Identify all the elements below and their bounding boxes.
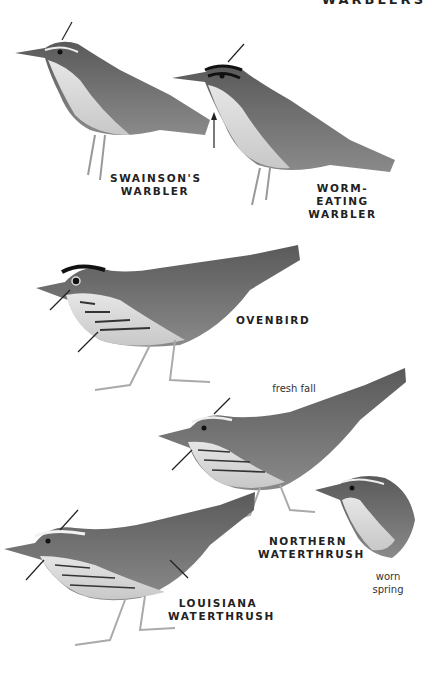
label-louisiana-waterthrush: LOUISIANA WATERTHRUSH: [168, 597, 268, 623]
label-swainsons-warbler: SWAINSON'S WARBLER: [110, 172, 200, 198]
note-fresh-fall: fresh fall: [264, 382, 324, 395]
note-worn-spring: worn spring: [368, 570, 408, 596]
label-worm-eating-warbler: WORM-EATING WARBLER: [295, 182, 390, 221]
label-ovenbird: OVENBIRD: [236, 314, 306, 327]
swainsons-warbler-illustration: [15, 22, 210, 180]
label-northern-waterthrush: NORTHERN WATERTHRUSH: [258, 535, 358, 561]
